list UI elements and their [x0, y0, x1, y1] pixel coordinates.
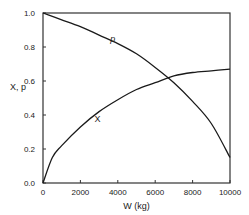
y-tick-label: 0.8 — [24, 43, 36, 52]
y-tick-label: 0.0 — [24, 179, 36, 188]
series-label-p: p — [109, 34, 115, 44]
y-axis-label: X, p — [10, 82, 26, 92]
y-tick-label: 0.4 — [24, 111, 36, 120]
plot-frame — [43, 13, 230, 183]
x-tick-label: 10000 — [219, 188, 242, 197]
x-tick-label: 4000 — [109, 188, 127, 197]
chart: 02000400060008000100000.00.20.40.60.81.0… — [0, 0, 249, 215]
x-axis-label: W (kg) — [123, 201, 150, 211]
y-tick-label: 1.0 — [24, 9, 36, 18]
x-tick-label: 8000 — [184, 188, 202, 197]
series-label-x: X — [94, 114, 100, 124]
y-tick-label: 0.2 — [24, 145, 36, 154]
series-x-line — [43, 69, 230, 183]
x-tick-label: 6000 — [146, 188, 164, 197]
axis-ticks: 02000400060008000100000.00.20.40.60.81.0 — [24, 9, 242, 197]
data-lines — [43, 13, 230, 183]
plot-border — [43, 13, 230, 183]
x-tick-label: 0 — [41, 188, 46, 197]
x-tick-label: 2000 — [72, 188, 90, 197]
